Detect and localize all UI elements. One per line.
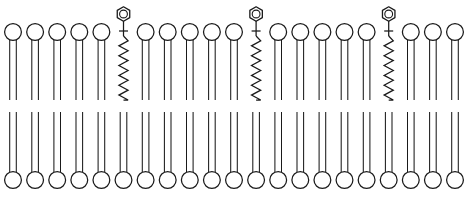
lipid-head [159, 24, 176, 41]
lipid-head [292, 24, 309, 41]
lipid-head [204, 172, 221, 189]
lipid-head [49, 172, 66, 189]
lipid-head [226, 24, 243, 41]
lipid-head [181, 24, 198, 41]
lipid-head [425, 172, 442, 189]
lipid-head [49, 24, 66, 41]
lipid-head [204, 24, 221, 41]
lipid-head [292, 172, 309, 189]
lipid-head [159, 172, 176, 189]
lipid-head [115, 172, 132, 189]
lipid-head [93, 24, 110, 41]
lipid-head [402, 172, 419, 189]
lipid-head [181, 172, 198, 189]
lipid-head [447, 172, 464, 189]
lipid-head [270, 172, 287, 189]
lipid-head [5, 24, 22, 41]
lipid-head [137, 24, 154, 41]
lipid-head [425, 24, 442, 41]
bilayer-figure [0, 0, 467, 198]
lipid-head [93, 172, 110, 189]
lipid-head [447, 24, 464, 41]
lipid-head [358, 172, 375, 189]
lipid-head [71, 172, 88, 189]
lipid-head [71, 24, 88, 41]
lipid-head [5, 172, 22, 189]
lipid-head [402, 24, 419, 41]
lipid-head [336, 24, 353, 41]
lipid-head [27, 24, 44, 41]
lipid-head [380, 172, 397, 189]
lipid-head [27, 172, 44, 189]
lipid-head [270, 24, 287, 41]
lipid-head [226, 172, 243, 189]
lipid-head [314, 172, 331, 189]
lipid-head [336, 172, 353, 189]
lipid-head [358, 24, 375, 41]
lipid-head [248, 172, 265, 189]
bilayer-canvas [0, 0, 467, 198]
lipid-head [314, 24, 331, 41]
lipid-head [137, 172, 154, 189]
